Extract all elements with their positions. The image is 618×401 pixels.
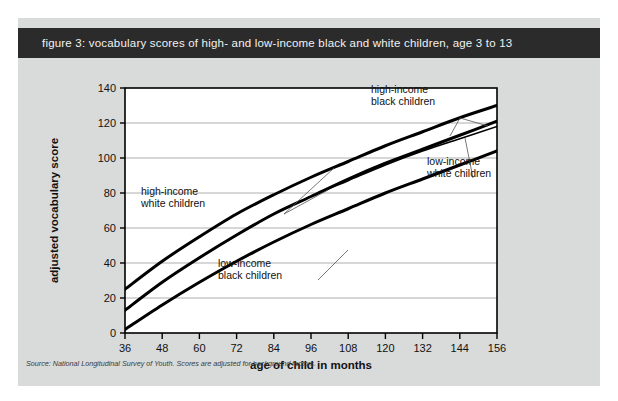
ytick-label: 20 — [104, 292, 116, 304]
source-note: Source: National Longitudinal Survey of … — [26, 359, 586, 368]
xtick-label: 48 — [156, 342, 168, 354]
xtick-label: 120 — [376, 342, 394, 354]
annotation-label: high-incomewhite children — [140, 185, 205, 209]
xtick-label: 108 — [339, 342, 357, 354]
xtick-label: 96 — [305, 342, 317, 354]
xtick-label: 72 — [230, 342, 242, 354]
figure-panel: figure 3: vocabulary scores of high- and… — [18, 18, 600, 386]
annotation-label: high-incomeblack children — [371, 83, 435, 107]
ytick-label: 60 — [104, 222, 116, 234]
xtick-label: 36 — [119, 342, 131, 354]
xtick-label: 156 — [488, 342, 506, 354]
ytick-label: 0 — [110, 327, 116, 339]
ytick-label: 120 — [98, 117, 116, 129]
ytick-label: 100 — [98, 152, 116, 164]
xtick-label: 144 — [451, 342, 469, 354]
ytick-label: 80 — [104, 187, 116, 199]
vocabulary-score-line-chart: 0204060801001201403648607284961081201321… — [18, 18, 600, 386]
ytick-label: 140 — [98, 82, 116, 94]
xtick-label: 60 — [193, 342, 205, 354]
xtick-label: 132 — [413, 342, 431, 354]
ytick-label: 40 — [104, 257, 116, 269]
chart-plot-area: 0204060801001201403648607284961081201321… — [18, 18, 600, 386]
xtick-label: 84 — [268, 342, 280, 354]
y-axis-title: adjusted vocabulary score — [48, 138, 60, 283]
